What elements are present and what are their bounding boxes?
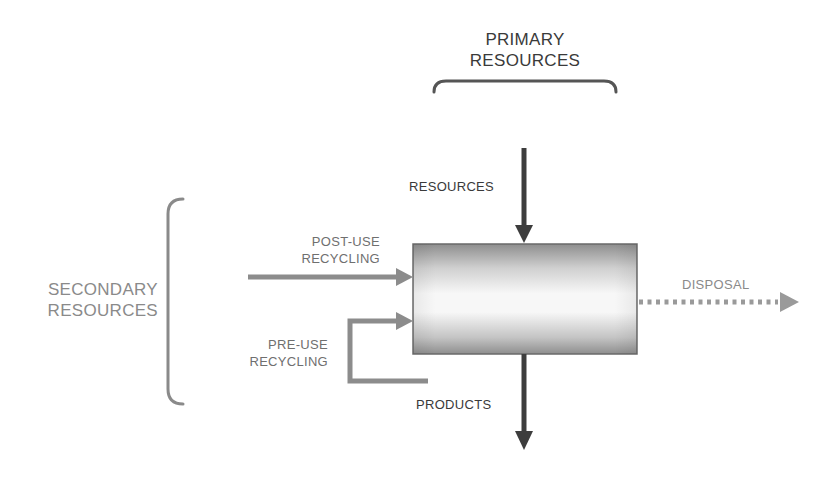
material-flow-diagram (0, 0, 828, 478)
secondary-resources-line1: SECONDARY (18, 279, 158, 300)
disposal-flow-label: DISPOSAL (682, 276, 749, 293)
pre-use-line1: PRE-USE (220, 336, 328, 353)
products-flow-label: PRODUCTS (416, 396, 491, 413)
post-use-line2: RECYCLING (270, 250, 380, 267)
pre-use-line2: RECYCLING (220, 353, 328, 370)
pre-use-recycling-label: PRE-USE RECYCLING (220, 336, 328, 370)
post-use-recycling-arrow-icon (248, 268, 413, 286)
post-use-recycling-label: POST-USE RECYCLING (270, 233, 380, 267)
secondary-resources-label: SECONDARY RESOURCES (18, 279, 158, 321)
process-box (413, 244, 637, 354)
products-arrow-icon (515, 354, 533, 450)
post-use-line1: POST-USE (270, 233, 380, 250)
primary-resources-line1: PRIMARY (460, 29, 590, 50)
secondary-resources-line2: RESOURCES (18, 300, 158, 321)
resources-flow-label: RESOURCES (409, 178, 494, 195)
primary-resources-label: PRIMARY RESOURCES (460, 29, 590, 71)
disposal-arrow-icon (639, 292, 799, 312)
resources-arrow-icon (515, 148, 533, 243)
secondary-resources-brace (168, 199, 183, 404)
primary-resources-brace (434, 81, 616, 92)
primary-resources-line2: RESOURCES (460, 50, 590, 71)
